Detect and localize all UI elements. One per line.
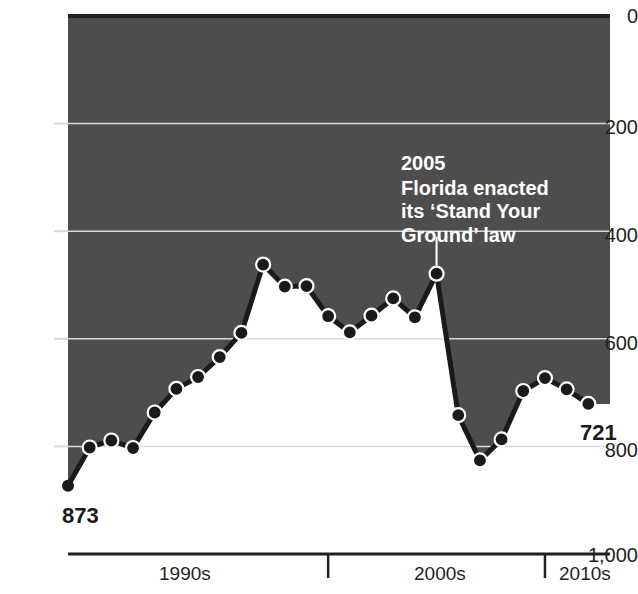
data-point (581, 397, 595, 411)
y-tick-label-200: 200 (580, 117, 638, 137)
data-point (495, 432, 509, 446)
annotation-stand-your-ground: 2005 Florida enacted its ‘Stand Your Gro… (401, 152, 576, 247)
y-tick-label-0: 0 (580, 6, 638, 26)
data-point (169, 382, 183, 396)
data-point (430, 267, 444, 281)
data-point (234, 326, 248, 340)
annotation-line-1: Florida enacted (401, 177, 576, 201)
y-axis-ticks (54, 124, 68, 447)
annotation-line-3: Ground’ law (401, 224, 576, 248)
data-point (538, 371, 552, 385)
x-tick-label-2000s: 2000s (414, 564, 466, 583)
data-point (213, 350, 227, 364)
data-point (148, 406, 162, 420)
y-tick-label-600: 600 (580, 333, 638, 353)
first-value-label: 873 (62, 505, 99, 527)
data-point (83, 440, 97, 454)
data-point (62, 480, 74, 492)
chart-container: 0 200 400 600 800 1,000 1990s 2000s 2010… (0, 0, 638, 594)
data-point (473, 453, 487, 467)
data-point (299, 279, 313, 293)
data-point (386, 291, 400, 305)
data-point (516, 384, 530, 398)
x-tick-label-2010s: 2010s (559, 564, 611, 583)
data-point (408, 310, 422, 324)
annotation-line-2: its ‘Stand Your (401, 200, 576, 224)
data-point (321, 309, 335, 323)
data-point (256, 258, 270, 272)
data-point (278, 280, 292, 294)
data-point (126, 441, 140, 455)
x-tick-label-1990s: 1990s (159, 564, 211, 583)
y-tick-label-400: 400 (580, 225, 638, 245)
data-point (104, 433, 118, 447)
annotation-year: 2005 (401, 152, 576, 176)
data-point (191, 370, 205, 384)
data-point (343, 325, 357, 339)
data-point (451, 408, 465, 422)
data-point (365, 309, 379, 323)
y-tick-label-1000: 1,000 (580, 545, 638, 565)
last-value-label: 721 (580, 422, 617, 444)
data-point (560, 382, 574, 396)
